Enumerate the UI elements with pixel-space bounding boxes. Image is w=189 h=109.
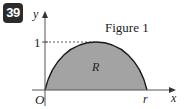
figure-caption: Figure 1 [105, 20, 149, 35]
y-tick-label: 1 [34, 35, 41, 50]
region-label: R [91, 60, 100, 74]
y-axis-label: y [32, 7, 39, 21]
x-tick-label: r [143, 92, 148, 106]
figure-diagram: y 1 Figure 1 R O r x [0, 0, 189, 109]
origin-label: O [35, 92, 45, 107]
x-axis-label: x [170, 91, 177, 105]
y-axis-arrow-icon [42, 11, 48, 18]
